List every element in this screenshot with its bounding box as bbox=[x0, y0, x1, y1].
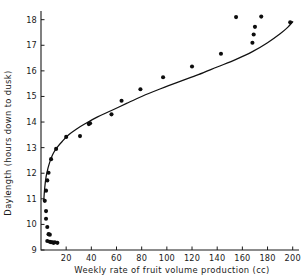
data-point bbox=[48, 233, 52, 237]
data-point bbox=[288, 20, 292, 24]
y-tick-label: 15 bbox=[26, 91, 37, 101]
x-tick-label: 100 bbox=[159, 253, 175, 263]
chart-figure: 9101112131415161718 20406080100120140160… bbox=[0, 0, 305, 279]
x-tick-label: 60 bbox=[111, 253, 122, 263]
x-tick-label: 20 bbox=[61, 253, 72, 263]
y-tick-label: 18 bbox=[26, 15, 37, 25]
y-tick-label: 13 bbox=[26, 143, 37, 153]
data-point bbox=[138, 87, 142, 91]
x-axis-title: Weekly rate of fruit volume production (… bbox=[74, 265, 269, 275]
data-point bbox=[120, 99, 124, 103]
y-tick-label: 11 bbox=[26, 194, 37, 204]
scatter-plot: 9101112131415161718 20406080100120140160… bbox=[0, 0, 305, 279]
y-tick-label: 9 bbox=[32, 245, 37, 255]
y-axis-title: Daylength (hours down to dusk) bbox=[3, 70, 13, 215]
fitted-curve-group bbox=[44, 22, 293, 200]
y-tick-label: 17 bbox=[26, 40, 37, 50]
x-tick-label: 180 bbox=[259, 253, 275, 263]
x-tick-label: 140 bbox=[209, 253, 225, 263]
data-point bbox=[47, 171, 51, 175]
data-point bbox=[49, 157, 53, 161]
data-points-group bbox=[43, 15, 293, 245]
data-point bbox=[234, 15, 238, 19]
data-point bbox=[253, 25, 257, 29]
data-point bbox=[259, 15, 263, 19]
data-point bbox=[44, 209, 48, 213]
x-tick-label: 80 bbox=[136, 253, 147, 263]
data-point bbox=[45, 178, 49, 182]
x-tick-label: 200 bbox=[285, 253, 301, 263]
data-point bbox=[161, 75, 165, 79]
x-tick-label: 160 bbox=[234, 253, 250, 263]
data-point bbox=[64, 135, 68, 139]
data-point bbox=[190, 64, 194, 68]
y-tick-label: 14 bbox=[26, 117, 37, 127]
data-point bbox=[109, 112, 113, 116]
data-point bbox=[88, 121, 92, 125]
data-point bbox=[44, 189, 48, 193]
data-point bbox=[55, 241, 59, 245]
data-point bbox=[78, 134, 82, 138]
data-point bbox=[43, 199, 47, 203]
x-tick-label: 120 bbox=[184, 253, 200, 263]
y-tick-label: 16 bbox=[26, 66, 37, 76]
data-point bbox=[45, 225, 49, 229]
data-point bbox=[252, 32, 256, 36]
x-tick-group: 20406080100120140160180200 bbox=[61, 247, 301, 264]
data-point bbox=[44, 217, 48, 221]
fitted-curve-path bbox=[44, 22, 293, 200]
y-tick-group: 9101112131415161718 bbox=[26, 15, 44, 255]
data-point bbox=[54, 147, 58, 151]
data-point bbox=[250, 41, 254, 45]
data-point bbox=[219, 52, 223, 56]
x-tick-label: 40 bbox=[86, 253, 97, 263]
y-tick-label: 12 bbox=[26, 168, 37, 178]
y-tick-label: 10 bbox=[26, 219, 37, 229]
